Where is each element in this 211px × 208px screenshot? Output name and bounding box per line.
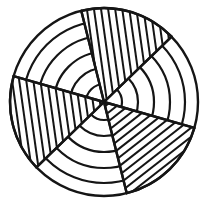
figure-root [0, 0, 211, 208]
circle-pattern-figure [0, 0, 211, 208]
